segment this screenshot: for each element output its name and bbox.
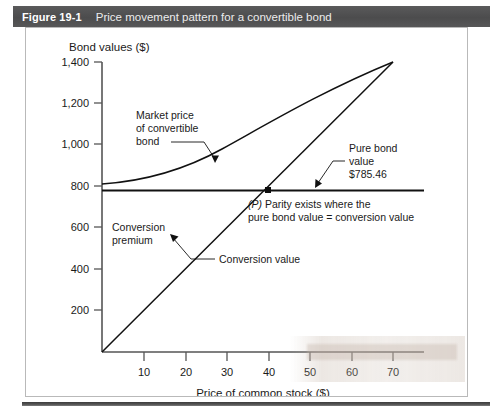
y-axis-title: Bond values ($) [69,41,150,53]
y-tick-label-400: 400 [71,263,89,275]
figure-root: Figure 19-1 Price movement pattern for a… [0,0,500,412]
x-axis-ticks [144,352,393,361]
annotation-conversion-value: Conversion value [170,234,300,265]
x-tick-label-20: 20 [180,366,192,378]
market-price-arrowhead [212,156,220,164]
pure-bond-line2: value [349,155,374,167]
annotation-parity: (P) Parity exists where the pure bond va… [248,198,414,223]
x-tick-label-70: 70 [387,366,399,378]
parity-line1: (P) Parity exists where the [248,198,371,210]
pure-bond-arrowhead [315,179,322,188]
market-price-line2: of convertible [136,122,199,134]
x-tick-label-30: 30 [221,366,233,378]
y-tick-label-600: 600 [71,221,89,233]
y-tick-label-1200: 1,200 [61,97,89,109]
conversion-premium-line1: Conversion [112,221,165,233]
x-tick-label-40: 40 [263,366,275,378]
y-tick-label-800: 800 [71,180,89,192]
pure-bond-line3: $785.46 [349,168,387,180]
chart-container: Bond values ($) 1,400 1,200 1,000 800 60… [25,27,468,397]
y-tick-label-1400: 1,400 [61,56,89,68]
parity-line2: pure bond value = conversion value [248,211,414,223]
parity-line1-rest: Parity exists where the [262,198,371,210]
x-tick-label-50: 50 [304,366,316,378]
figure-header-bar: Figure 19-1 Price movement pattern for a… [13,6,490,27]
figure-title: Price movement pattern for a convertible… [96,11,332,23]
y-tick-label-200: 200 [71,304,89,316]
bottom-divider-rule [22,402,490,406]
y-axis-ticks [94,62,102,310]
market-price-line1: Market price [136,109,194,121]
x-tick-label-10: 10 [138,366,150,378]
annotation-pure-bond-value: Pure bond value $785.46 [315,142,398,188]
annotation-conversion-premium: Conversion premium [112,221,165,246]
pure-bond-line1: Pure bond [349,142,398,154]
conversion-premium-line2: premium [112,234,153,246]
figure-number: Figure 19-1 [22,11,82,23]
conversion-value-arrowhead [170,234,179,242]
x-axis-title: Price of common stock ($) [196,387,330,397]
chart-plot: Bond values ($) 1,400 1,200 1,000 800 60… [26,28,468,397]
x-tick-label-60: 60 [346,366,358,378]
market-price-line3: bond [136,135,160,147]
parity-p-symbol: (P) [248,198,262,210]
conversion-value-line1: Conversion value [219,253,300,265]
parity-point-marker [265,187,271,193]
y-tick-label-1000: 1,000 [61,138,89,150]
annotation-market-price: Market price of convertible bond [136,109,219,163]
